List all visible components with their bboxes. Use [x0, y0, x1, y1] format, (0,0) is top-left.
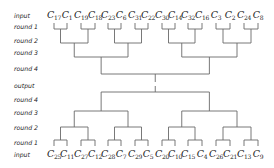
bottom-leaf-c4: C4: [197, 148, 208, 160]
bottom-leaf-c15: C15: [181, 148, 195, 160]
row-label-bottom-input: input: [14, 151, 30, 158]
bottom-leaf-c29: C29: [128, 148, 142, 160]
top-leaf-c16: C16: [195, 9, 209, 21]
tournament-tree-diagram: inputround 1round 2round 3round 4outputr…: [0, 0, 274, 168]
top-leaf-c18: C18: [88, 9, 102, 21]
top-leaf-c30: C30: [155, 9, 169, 21]
row-label-output: output: [14, 82, 34, 89]
bottom-leaf-c9: C9: [253, 148, 264, 160]
row-label-bottom-round-3: round 3: [14, 109, 38, 116]
top-leaf-c2: C2: [225, 9, 236, 21]
row-label-top-round-1: round 1: [14, 23, 38, 30]
top-leaf-c3: C3: [211, 9, 222, 21]
top-leaf-c19: C19: [74, 9, 88, 21]
top-leaf-c32: C32: [181, 9, 195, 21]
row-label-top-round-2: round 2: [14, 37, 38, 44]
bottom-leaf-c27: C27: [74, 148, 88, 160]
tree-connectors: [0, 0, 274, 168]
bottom-leaf-c21: C21: [223, 148, 237, 160]
bottom-leaf-c25: C25: [47, 148, 61, 160]
top-leaf-c23: C23: [101, 9, 115, 21]
bottom-leaf-c7: C7: [116, 148, 127, 160]
row-label-top-input: input: [14, 12, 30, 19]
top-leaf-c1: C1: [62, 9, 73, 21]
top-leaf-c17: C17: [47, 9, 61, 21]
bottom-leaf-c10: C10: [168, 148, 182, 160]
row-label-bottom-round-4: round 4: [14, 96, 38, 103]
bottom-leaf-c13: C13: [237, 148, 251, 160]
top-leaf-c8: C8: [253, 9, 264, 21]
row-label-top-round-3: round 3: [14, 49, 38, 56]
bottom-leaf-c12: C12: [88, 148, 102, 160]
top-leaf-c14: C14: [168, 9, 182, 21]
top-leaf-c31: C31: [128, 9, 142, 21]
row-label-bottom-round-2: round 2: [14, 124, 38, 131]
top-leaf-c22: C22: [141, 9, 155, 21]
top-leaf-c6: C6: [116, 9, 127, 21]
row-label-top-round-4: round 4: [14, 65, 38, 72]
row-label-bottom-round-1: round 1: [14, 139, 38, 146]
bottom-leaf-c26: C26: [209, 148, 223, 160]
bottom-leaf-c11: C11: [60, 148, 74, 160]
top-leaf-c24: C24: [237, 9, 251, 21]
bottom-leaf-c28: C28: [101, 148, 115, 160]
bottom-leaf-c5: C5: [143, 148, 154, 160]
bottom-leaf-c20: C20: [155, 148, 169, 160]
